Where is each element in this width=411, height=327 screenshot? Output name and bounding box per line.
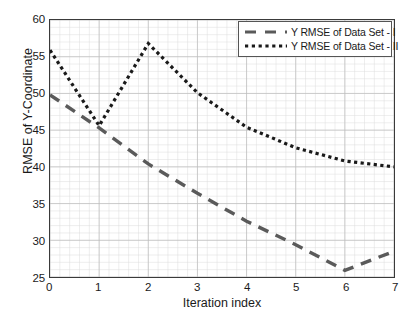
x-tick-label: 7 <box>383 281 407 293</box>
plot-area <box>49 19 395 278</box>
data-series-group <box>50 43 394 270</box>
y-tick-label: 30 <box>20 235 45 247</box>
legend-item: Y RMSE of Data Set - I <box>243 25 387 39</box>
legend-label: Y RMSE of Data Set - I <box>291 26 395 38</box>
x-tick-label: 6 <box>334 281 358 293</box>
x-tick-label: 3 <box>185 281 209 293</box>
chart-canvas <box>50 20 394 277</box>
legend-swatch-dotted <box>243 40 289 52</box>
legend-swatch-dashed <box>243 26 289 38</box>
legend-item: Y RMSE of Data Set - II <box>243 39 387 53</box>
chart-figure: 60 55 50 45 40 35 30 25 0 1 2 3 4 5 6 7 … <box>0 0 411 327</box>
x-tick-label: 0 <box>37 281 61 293</box>
legend-label: Y RMSE of Data Set - II <box>291 40 398 52</box>
minor-gridlines <box>50 20 394 277</box>
x-tick-label: 4 <box>235 281 259 293</box>
major-gridlines <box>50 20 394 277</box>
x-tick-label: 2 <box>136 281 160 293</box>
x-axis-label: Iteration index <box>49 296 395 310</box>
x-tick-label: 1 <box>86 281 110 293</box>
series-line-2 <box>50 43 394 166</box>
y-axis-label: RMSE of Y-Coordinate <box>21 0 35 231</box>
x-tick-label: 5 <box>284 281 308 293</box>
chart-legend: Y RMSE of Data Set - I Y RMSE of Data Se… <box>238 21 392 57</box>
